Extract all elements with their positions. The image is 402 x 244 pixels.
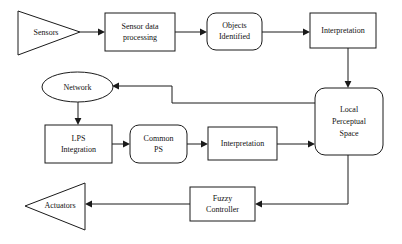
edge-objects-identified-to-interpretation-top: [262, 29, 310, 36]
node-sensor-data-processing-label-line1: Sensor data: [121, 22, 159, 31]
edge-lps-integration-to-common-ps: [112, 141, 130, 148]
edge-sensors-to-sensor-data-processing: [80, 29, 105, 36]
flow-diagram: Sensors Sensor data processing Objects I…: [0, 0, 402, 244]
edge-local-perceptual-space-to-fuzzy-controller: [255, 155, 348, 207]
node-common-ps-label-line2: PS: [154, 145, 163, 154]
edge-common-ps-to-interpretation-bottom: [187, 141, 208, 148]
node-local-perceptual-space-label-line3: Space: [339, 129, 359, 138]
edge-interpretation-bottom-to-local-perceptual-space: [277, 141, 315, 148]
node-objects-identified-label-line2: Identified: [219, 32, 250, 41]
edge-local-perceptual-space-to-network: [112, 83, 315, 103]
node-objects-identified[interactable]: Objects Identified: [207, 13, 262, 50]
edge-sensor-data-processing-to-objects-identified: [175, 29, 207, 36]
node-actuators[interactable]: Actuators: [25, 183, 85, 230]
node-objects-identified-label-line1: Objects: [222, 21, 246, 30]
node-interpretation-top-label: Interpretation: [321, 26, 365, 35]
node-interpretation-bottom-label: Interpretation: [221, 139, 265, 148]
node-sensors-label: Sensors: [34, 28, 59, 37]
node-sensor-data-processing-label-line2: processing: [123, 33, 157, 42]
node-lps-integration-label-line1: LPS: [72, 134, 86, 143]
edge-fuzzy-controller-to-actuators: [85, 201, 190, 208]
node-local-perceptual-space-label-line2: Perceptual: [332, 117, 367, 126]
node-sensors[interactable]: Sensors: [18, 11, 80, 55]
node-fuzzy-controller-label-line1: Fuzzy: [213, 194, 233, 203]
node-network-label: Network: [64, 83, 92, 92]
node-actuators-label: Actuators: [44, 201, 75, 210]
node-common-ps-label-line1: Common: [144, 134, 174, 143]
diagram-canvas: Sensors Sensor data processing Objects I…: [0, 0, 402, 244]
node-interpretation-top[interactable]: Interpretation: [310, 13, 376, 48]
node-fuzzy-controller[interactable]: Fuzzy Controller: [190, 187, 255, 221]
node-local-perceptual-space-label-line1: Local: [340, 105, 359, 114]
node-network[interactable]: Network: [42, 72, 113, 102]
node-lps-integration[interactable]: LPS Integration: [45, 125, 112, 163]
node-common-ps[interactable]: Common PS: [130, 125, 187, 163]
node-lps-integration-label-line2: Integration: [61, 145, 96, 154]
node-interpretation-bottom[interactable]: Interpretation: [208, 127, 277, 160]
node-fuzzy-controller-label-line2: Controller: [206, 205, 239, 214]
edge-interpretation-top-to-local-perceptual-space: [345, 48, 352, 88]
edge-network-to-lps-integration: [75, 102, 82, 125]
node-sensor-data-processing[interactable]: Sensor data processing: [105, 13, 175, 51]
node-local-perceptual-space[interactable]: Local Perceptual Space: [315, 88, 383, 155]
